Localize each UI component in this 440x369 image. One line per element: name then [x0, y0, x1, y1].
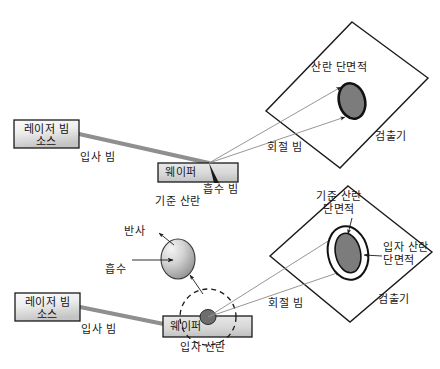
diffracted-beam-top-label: 회절 빔 — [267, 141, 303, 154]
absorbed-beam-label: 흡수 빔 — [203, 183, 239, 196]
wafer-top-label: 웨이퍼 — [165, 166, 197, 179]
incident-beam-top-label: 입사 빔 — [80, 151, 116, 164]
particle-scattering-caption: 입자 산란 — [180, 341, 226, 354]
diffracted-beam-bottom-label: 회절 빔 — [268, 297, 304, 310]
scattering-cross-section-label: 산란 단면적 — [311, 61, 368, 74]
reference-cross-section-label: 기준 산란 단면적 — [316, 190, 362, 216]
reference-scattering-caption: 기준 산란 — [155, 195, 201, 208]
figure-canvas: 레이저 빔 소스 입사 빔 웨이퍼 흡수 빔 기준 산란 회절 빔 검출기 산란… — [0, 0, 440, 369]
absorption-label: 흡수 — [105, 263, 126, 276]
particle-sphere-callout — [161, 239, 203, 294]
detector-bottom-label: 검출기 — [378, 293, 410, 306]
particle-cross-section-label: 입자 산란 단면적 — [383, 241, 429, 267]
reflection-label: 반사 — [124, 225, 145, 238]
incident-beam-bottom-label: 입사 빔 — [81, 323, 117, 336]
laser-source-bottom-label: 레이저 빔 소스 — [15, 297, 80, 321]
laser-source-top-label: 레이저 빔 소스 — [14, 124, 79, 148]
reflection-arrow — [159, 233, 174, 245]
detector-top-label: 검출기 — [375, 130, 407, 143]
scattering-cross-section-top-shape — [335, 80, 369, 121]
wafer-bottom-label: 웨이퍼 — [170, 320, 202, 333]
cross-section-bottom-shapes — [323, 218, 382, 284]
